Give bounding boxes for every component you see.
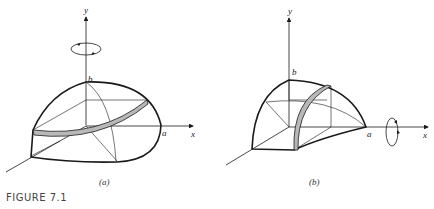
a-label-a: a: [162, 129, 167, 138]
figure-canvas: [0, 0, 434, 209]
b-label-a: b: [88, 75, 93, 84]
figure-caption: FIGURE 7.1: [6, 193, 67, 203]
z-axis-b: [226, 127, 289, 165]
b-label-b: b: [292, 68, 297, 77]
panel-label-a: (a): [99, 178, 110, 187]
y-axis-label-a: y: [84, 6, 88, 15]
panel-a: [6, 17, 193, 172]
x-axis-label-a: x: [191, 130, 195, 139]
shaded-strip-a: [33, 100, 148, 136]
panel-b: [226, 18, 428, 165]
rotation-arrow-icon-b: [386, 118, 400, 146]
shaded-strip-b: [294, 85, 331, 150]
panel-label-b: (b): [309, 178, 320, 187]
ellipsoid-outline-a: [31, 82, 161, 162]
a-label-b: a: [367, 130, 372, 139]
x-axis-label-b: x: [423, 131, 427, 140]
y-axis-label-b: y: [288, 7, 292, 16]
